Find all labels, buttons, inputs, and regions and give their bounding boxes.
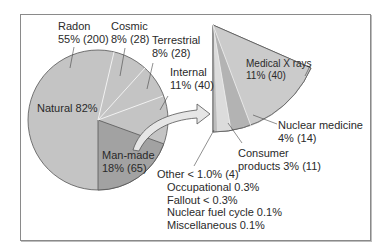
label-medical-value: 11% (40) — [246, 70, 312, 82]
other-breakdown-list: Occupational 0.3% Fallout < 0.3% Nuclear… — [167, 181, 282, 231]
label-internal-name: Internal — [170, 66, 214, 79]
label-medical-xrays: Medical X rays 11% (40) — [246, 58, 312, 82]
label-consumer-products: Consumer products 3% (11) — [238, 147, 321, 172]
label-nuclear-medicine-name: Nuclear medicine — [278, 119, 363, 132]
label-terrestrial: Terrestrial 8% (28) — [152, 34, 200, 59]
other-item-occupational: Occupational 0.3% — [167, 181, 282, 194]
leader-other — [194, 130, 214, 166]
label-natural: Natural 82% — [37, 102, 98, 115]
label-terrestrial-name: Terrestrial — [152, 34, 200, 47]
label-cosmic-value: 8% (28) — [111, 33, 150, 46]
label-cosmic-name: Cosmic — [111, 20, 150, 33]
label-man-made-value: 18% (65) — [102, 162, 155, 175]
label-other: Other < 1.0% (4) — [157, 168, 239, 181]
label-radon-value: 55% (200) — [58, 33, 109, 46]
label-man-made-name: Man-made — [102, 149, 155, 162]
label-nuclear-medicine: Nuclear medicine 4% (14) — [278, 119, 363, 144]
label-consumer-value: products 3% (11) — [238, 160, 321, 173]
label-radon-name: Radon — [58, 20, 109, 33]
label-radon: Radon 55% (200) — [58, 20, 109, 45]
label-terrestrial-value: 8% (28) — [152, 47, 200, 60]
other-item-nuclear-fuel-cycle: Nuclear fuel cycle 0.1% — [167, 206, 282, 219]
label-nuclear-medicine-value: 4% (14) — [278, 132, 363, 145]
man-made-sector — [194, 25, 311, 166]
label-medical-name: Medical X rays — [246, 58, 312, 70]
label-man-made: Man-made 18% (65) — [102, 149, 155, 174]
label-consumer-name: Consumer — [238, 147, 321, 160]
other-item-miscellaneous: Miscellaneous 0.1% — [167, 219, 282, 232]
other-item-fallout: Fallout < 0.3% — [167, 194, 282, 207]
label-cosmic: Cosmic 8% (28) — [111, 20, 150, 45]
label-internal-value: 11% (40) — [170, 79, 214, 92]
label-internal: Internal 11% (40) — [170, 66, 214, 91]
